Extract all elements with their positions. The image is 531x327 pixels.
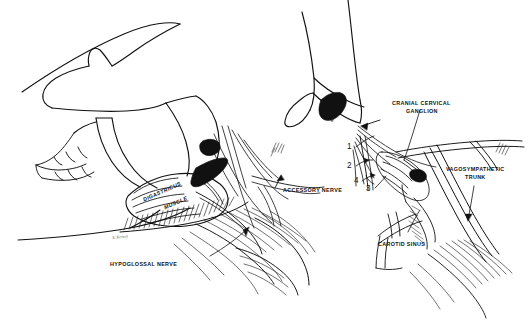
bulla-region-pointer: [361, 120, 380, 130]
callout-number-4: 4: [354, 176, 359, 185]
carotid-sinus: [402, 185, 435, 249]
digastric-tendon-wedge: [191, 158, 228, 187]
left-ganglion-blob: [200, 139, 221, 155]
leader-lines: [210, 110, 474, 256]
neck-musculature: [174, 208, 315, 295]
ganglion-arrowhead: [404, 160, 427, 182]
illustration-linework: [0, 0, 531, 327]
callout-number-3: 3: [366, 184, 371, 193]
label-accessory-nerve: ACCESSORY NERVE: [283, 187, 342, 194]
label-cranial-cervical-ganglion-line2: GANGLION: [406, 108, 438, 115]
anatomical-illustration: ACCESSORY NERVE HYPOGLOSSAL NERVE DIGAST…: [0, 0, 531, 327]
label-vagosympathetic-trunk-line1: VAGOSYMPATHETIC: [446, 166, 505, 173]
label-cranial-cervical-ganglion-line1: CRANIAL CERVICAL: [392, 100, 451, 107]
nerve-stump-bristles: [271, 143, 284, 156]
label-carotid-sinus: CAROTID SINUS: [378, 241, 425, 248]
label-hypoglossal-nerve: HYPOGLOSSAL NERVE: [110, 261, 177, 268]
callout-number-1: 1: [347, 142, 352, 151]
callout-number-2: 2: [347, 161, 352, 170]
skull-outline: [22, 23, 196, 112]
right-stump-bristles: [496, 143, 509, 155]
label-vagosympathetic-trunk-line2: TRUNK: [465, 174, 486, 181]
teeth-outline: [36, 133, 94, 180]
